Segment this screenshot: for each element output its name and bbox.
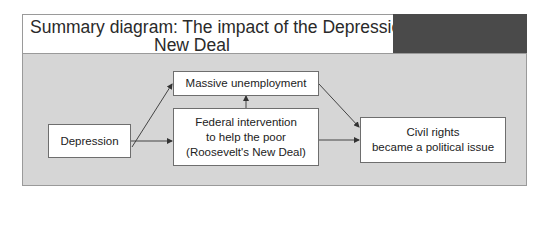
node-civil-rights-line-2: became a political issue <box>372 140 494 155</box>
node-federal-line-3: (Roosevelt's New Deal) <box>186 145 306 160</box>
node-depression-label: Depression <box>60 134 118 149</box>
node-unemployment-label: Massive unemployment <box>186 76 307 91</box>
node-federal-line-2: to help the poor <box>206 130 286 145</box>
node-federal-line-1: Federal intervention <box>195 115 297 130</box>
node-federal-intervention: Federal intervention to help the poor (R… <box>173 108 319 166</box>
arrow-unemployment-to-civil-rights <box>319 84 359 127</box>
node-civil-rights: Civil rights became a political issue <box>360 117 506 163</box>
node-depression: Depression <box>48 124 131 158</box>
node-civil-rights-line-1: Civil rights <box>406 125 459 140</box>
arrow-depression-to-unemployment <box>132 84 172 147</box>
node-massive-unemployment: Massive unemployment <box>173 71 319 96</box>
